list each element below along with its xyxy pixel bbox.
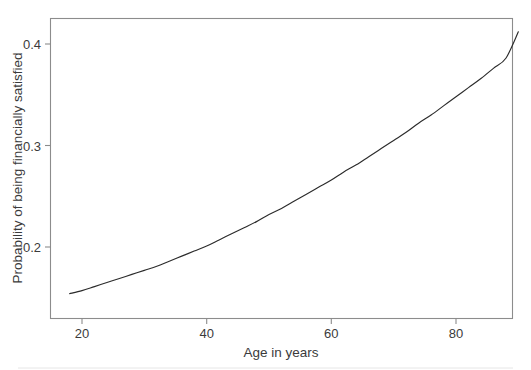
- x-tick-label-20: 20: [75, 326, 89, 341]
- chart-background: [0, 0, 531, 370]
- chart-figure: 0.2 0.3 0.4 20 40 60 80 Age in years Pro…: [0, 0, 531, 370]
- y-tick-label-0.2: 0.2: [23, 240, 41, 255]
- y-axis-title: Probability of being financially satisfi…: [10, 52, 25, 283]
- x-tick-label-60: 60: [324, 326, 338, 341]
- y-tick-label-0.3: 0.3: [23, 139, 41, 154]
- chart-canvas: 0.2 0.3 0.4 20 40 60 80 Age in years Pro…: [0, 0, 531, 370]
- x-axis-title: Age in years: [243, 345, 318, 360]
- y-tick-label-0.4: 0.4: [23, 37, 41, 52]
- x-tick-label-40: 40: [199, 326, 213, 341]
- x-tick-label-80: 80: [449, 326, 463, 341]
